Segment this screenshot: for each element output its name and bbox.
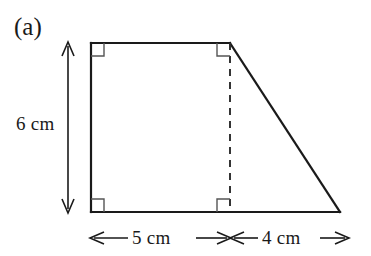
figure-canvas <box>0 0 371 256</box>
part-label: (a) <box>14 14 42 39</box>
height-dimension-label: 6 cm <box>16 114 55 133</box>
right-angle-marker-bottom-right <box>217 199 230 212</box>
base-left-dimension-label: 5 cm <box>132 228 171 247</box>
trapezoid-outline <box>91 43 340 212</box>
right-angle-marker-bottom-left <box>91 199 104 212</box>
base-right-dimension-label: 4 cm <box>262 228 301 247</box>
right-angle-marker-top-left <box>91 43 104 56</box>
height-dimension-arrow <box>62 42 74 213</box>
trapezoid-slant-edge <box>230 43 340 212</box>
right-angle-markers <box>91 43 230 212</box>
right-angle-marker-top-right <box>217 43 230 56</box>
geometry-figure: (a) 6 cm 5 cm 4 cm <box>0 0 371 256</box>
